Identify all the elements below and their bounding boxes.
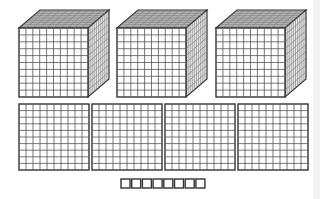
thousand-cube bbox=[216, 10, 306, 97]
hundred-flat bbox=[165, 104, 235, 170]
unit-cube bbox=[185, 179, 194, 188]
base-ten-blocks-diagram bbox=[0, 0, 320, 199]
hundred-flat bbox=[19, 104, 89, 170]
unit-cube bbox=[175, 179, 184, 188]
unit-cube bbox=[142, 179, 151, 188]
thousand-cube bbox=[117, 10, 207, 97]
hundred-flat bbox=[92, 104, 162, 170]
unit-cube bbox=[164, 179, 173, 188]
unit-cube bbox=[132, 179, 141, 188]
unit-cube bbox=[153, 179, 162, 188]
unit-cube bbox=[121, 179, 130, 188]
hundred-flat bbox=[238, 104, 308, 170]
unit-cube bbox=[196, 179, 205, 188]
thousand-cube bbox=[19, 10, 109, 97]
